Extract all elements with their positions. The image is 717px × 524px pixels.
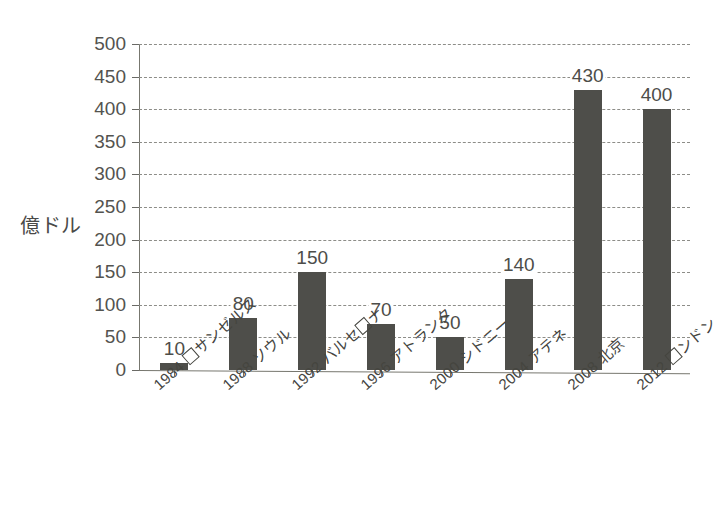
missing-glyph-box-icon [182, 347, 200, 365]
bar [574, 90, 602, 370]
y-tick-label: 150 [94, 261, 126, 283]
y-tick-mark [132, 207, 139, 208]
gridline [139, 240, 690, 241]
gridline [139, 207, 690, 208]
y-tick-label: 350 [94, 131, 126, 153]
bar-value-label: 150 [294, 248, 330, 268]
gridline [139, 305, 690, 306]
y-tick-label: 100 [94, 294, 126, 316]
missing-glyph-box-icon [664, 347, 682, 365]
y-tick-mark [132, 240, 139, 241]
y-tick-label: 250 [94, 196, 126, 218]
bar-value-label: 430 [570, 66, 606, 86]
gridline [139, 109, 690, 110]
y-tick-mark [132, 337, 139, 338]
gridline [139, 272, 690, 273]
gridline [139, 44, 690, 45]
gridline [139, 77, 690, 78]
gridline [139, 142, 690, 143]
y-tick-mark [132, 77, 139, 78]
y-tick-mark [132, 305, 139, 306]
y-tick-label: 300 [94, 163, 126, 185]
y-tick-label: 200 [94, 229, 126, 251]
missing-glyph-box-icon [354, 317, 372, 335]
bar [643, 109, 671, 370]
y-tick-label: 50 [105, 326, 126, 348]
y-axis-title: 億ドル [20, 210, 82, 239]
bar-value-label: 400 [639, 85, 675, 105]
y-tick-mark [132, 174, 139, 175]
y-tick-mark [132, 109, 139, 110]
y-tick-label: 0 [115, 359, 126, 381]
bar-value-label: 140 [501, 255, 537, 275]
gridline [139, 174, 690, 175]
y-tick-mark [132, 370, 139, 371]
y-tick-mark [132, 272, 139, 273]
y-tick-label: 400 [94, 98, 126, 120]
y-tick-mark [132, 142, 139, 143]
y-tick-label: 450 [94, 66, 126, 88]
y-tick-label: 500 [94, 33, 126, 55]
y-tick-mark [132, 44, 139, 45]
